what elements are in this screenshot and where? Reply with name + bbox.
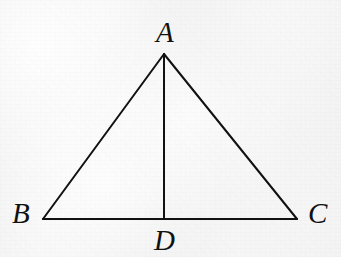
vertex-label-a: A <box>156 18 174 47</box>
vertex-label-b: B <box>12 199 30 228</box>
segment-ac <box>164 54 297 219</box>
vertex-label-d: D <box>154 226 175 255</box>
geometry-figure-canvas: A B C D <box>0 0 341 257</box>
segment-ab <box>43 54 164 219</box>
vertex-label-c: C <box>308 199 327 228</box>
